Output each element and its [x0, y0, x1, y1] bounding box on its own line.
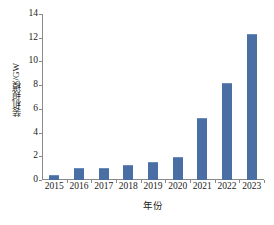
x-axis-tick-label: 2021 [193, 182, 212, 192]
x-axis-tick-label: 2019 [144, 182, 163, 192]
bars-layer [42, 14, 264, 180]
y-axis-title-text: 装机规模/GW [12, 63, 21, 117]
x-axis-tick-labels: 201520162017201820192020202120222023 [42, 182, 264, 196]
plot-area [42, 14, 264, 180]
bar [173, 157, 183, 180]
bar-chart-figure: 装机规模/GW 02468101214 20152016201720182019… [0, 0, 274, 225]
x-axis-tick-label: 2016 [70, 182, 89, 192]
x-axis-title: 年份 [42, 198, 264, 212]
y-axis-tick-label: 4 [33, 128, 38, 138]
y-axis-tick-label: 14 [29, 9, 39, 19]
y-axis-tick-label: 0 [33, 175, 38, 185]
bar [49, 175, 59, 180]
y-axis-tick-label: 10 [29, 57, 39, 67]
bar [123, 165, 133, 180]
y-axis-tick-mark [39, 180, 42, 181]
x-axis-tick-mark [264, 180, 265, 183]
x-axis-tick-label: 2017 [94, 182, 113, 192]
bar [197, 118, 207, 180]
bar [222, 83, 232, 180]
x-axis-tick-label: 2023 [242, 182, 261, 192]
y-axis-tick-label: 2 [33, 152, 38, 162]
y-axis-tick-label: 8 [33, 80, 38, 90]
x-axis-tick-label: 2022 [218, 182, 237, 192]
bar [99, 168, 109, 180]
y-axis-tick-labels: 02468101214 [22, 14, 40, 180]
bar [247, 34, 257, 180]
bar [74, 168, 84, 180]
y-axis-tick-label: 12 [29, 33, 39, 43]
x-axis-tick-label: 2018 [119, 182, 138, 192]
x-axis-tick-label: 2015 [45, 182, 64, 192]
y-axis-tick-label: 6 [33, 104, 38, 114]
bar [148, 162, 158, 180]
x-axis-tick-label: 2020 [168, 182, 187, 192]
